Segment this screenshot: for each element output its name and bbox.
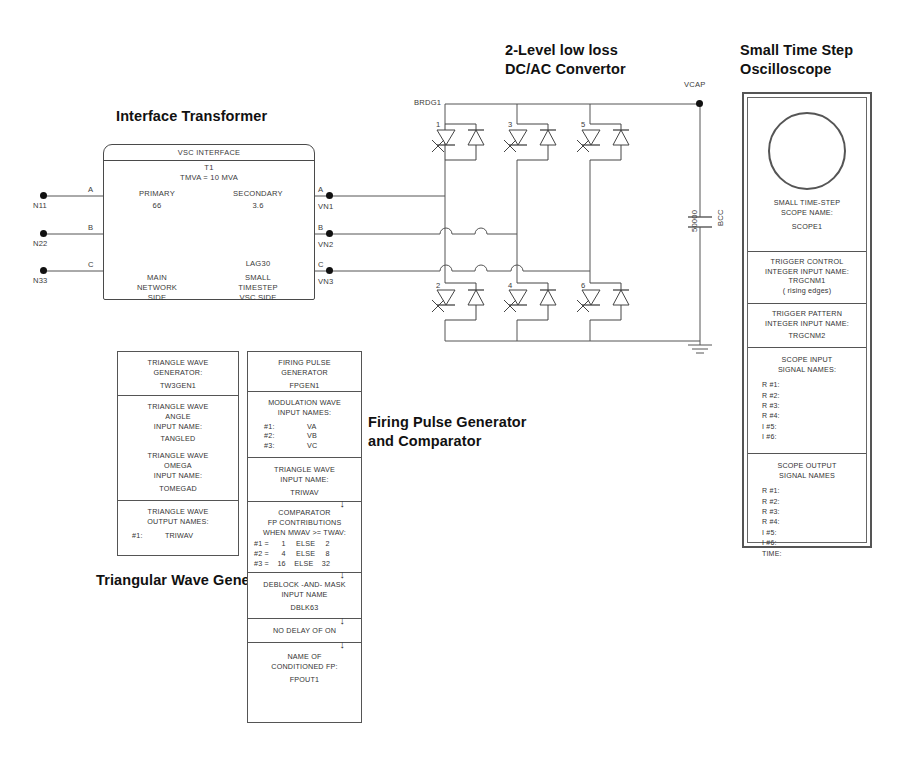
scope-input-signal: R #3:: [762, 401, 866, 411]
transformer-rating: TMVA = 10 MVA: [104, 173, 314, 182]
twgen-title-line1: TRIANGLE WAVE: [118, 358, 238, 368]
fpgen-mod-value: VC: [307, 441, 317, 450]
twgen-omega-line2: OMEGA: [118, 461, 238, 471]
transformer-title: VSC INTERFACE: [104, 145, 314, 161]
scope-output-signal: TIME:: [762, 549, 866, 559]
scope-input-line2: SIGNAL NAMES:: [748, 365, 866, 375]
fpgen-comp-off: 8: [326, 549, 330, 558]
heading-converter-line2: DC/AC Convertor: [505, 60, 626, 79]
trigger-pattern-line1: TRIGGER PATTERN: [748, 309, 866, 319]
fpgen-mod-row: #1: VA: [248, 422, 361, 432]
fpgen-cond-value: FPOUT1: [248, 675, 361, 685]
node-label-n22: N22: [33, 239, 48, 248]
scope-name-line2: SCOPE NAME:: [748, 208, 866, 218]
twgen-angle-value: TANGLED: [118, 434, 238, 444]
fpgen-title-section: FIRING PULSE GENERATOR FPGEN1: [248, 352, 361, 392]
scope-name-value: SCOPE1: [748, 222, 866, 232]
fpgen-modulation-section: MODULATION WAVE INPUT NAMES: #1: VA #2: …: [248, 392, 361, 458]
scope-input-signal: R #1:: [762, 380, 866, 390]
trigger-control-line1: TRIGGER CONTROL: [748, 257, 866, 267]
fpgen-comp-else: ELSE: [294, 559, 313, 568]
twgen-angle-line2: ANGLE: [118, 412, 238, 422]
trigger-control-value: TRGCNM1: [748, 276, 866, 286]
scope-input-line1: SCOPE INPUT: [748, 355, 866, 365]
fpgen-comp-line2: FP CONTRIBUTIONS: [248, 518, 361, 528]
twgen-omega-line1: TRIANGLE WAVE: [118, 451, 238, 461]
fpgen-comp-index: #3 =: [254, 559, 269, 568]
fpgen-title-line2: GENERATOR: [248, 368, 361, 378]
valve-label-1: 1: [436, 120, 440, 129]
oscilloscope-block[interactable]: SMALL TIME-STEP SCOPE NAME: SCOPE1 TRIGG…: [742, 92, 872, 548]
twgen-omega-value: TOMEGAD: [118, 484, 238, 494]
scope-output-signal: R #1:: [762, 486, 866, 496]
valve-label-6: 6: [581, 281, 585, 290]
fpgen-mod-line1: MODULATION WAVE: [248, 398, 361, 408]
valve-label-4: 4: [508, 281, 512, 290]
interface-transformer-block[interactable]: VSC INTERFACE T1 TMVA = 10 MVA PRIMARY 6…: [103, 144, 315, 300]
valve-label-3: 3: [508, 120, 512, 129]
transformer-primary-side-line3: SIDE: [112, 293, 202, 302]
twgen-angle-line3: INPUT NAME:: [118, 422, 238, 432]
fpgen-mod-row: #3: VC: [248, 441, 361, 451]
fpgen-comp-line3: WHEN MWAV >= TWAV:: [248, 528, 361, 538]
capacitor-value: 50000: [690, 210, 699, 232]
node-label-n11: N11: [33, 201, 47, 210]
fpgen-comp-row: #1 = 1 ELSE 2: [248, 539, 361, 549]
node-dot-vn2: [326, 230, 333, 237]
fpgen-tri-line1: TRIANGLE WAVE: [248, 465, 361, 475]
node-label-vcap: VCAP: [684, 80, 705, 89]
twgen-inputs-section: TRIANGLE WAVE ANGLE INPUT NAME: TANGLED …: [118, 396, 238, 501]
phase-label-secondary-a: A: [318, 185, 323, 194]
node-label-vn3: VN3: [318, 277, 333, 286]
phase-label-secondary-b: B: [318, 223, 323, 232]
fpgen-cond-line2: CONDITIONED FP:: [248, 662, 361, 672]
triangle-wave-generator-block[interactable]: TRIANGLE WAVE GENERATOR: TW3GEN1 TRIANGL…: [117, 351, 239, 556]
trigger-pattern-value: TRGCNM2: [748, 331, 866, 341]
fpgen-delay-section: NO DELAY OF ON ↓: [248, 619, 361, 643]
fpgen-deblock-line2: INPUT NAME: [248, 590, 361, 600]
bridge-label: BRDG1: [414, 98, 441, 107]
transformer-primary-kv: 66: [112, 201, 202, 210]
scope-name-section: SMALL TIME-STEP SCOPE NAME: SCOPE1: [748, 112, 866, 252]
capacitor-name: BCC: [716, 209, 725, 226]
fpgen-title-line1: FIRING PULSE: [248, 358, 361, 368]
twgen-outputs-section: TRIANGLE WAVE OUTPUT NAMES: #1: TRIWAV: [118, 501, 238, 557]
node-dot-n22: [40, 230, 47, 237]
fpgen-mod-index: #1:: [264, 422, 275, 431]
twgen-title-value: TW3GEN1: [118, 381, 238, 391]
scope-input-section: SCOPE INPUT SIGNAL NAMES: R #1: R #2: R …: [748, 348, 866, 454]
fpgen-deblock-line1: DEBLOCK -AND- MASK: [248, 580, 361, 590]
fpgen-comp-off: 32: [322, 559, 330, 568]
fpgen-mod-line2: INPUT NAMES:: [248, 408, 361, 418]
fpgen-comp-on: 4: [281, 549, 285, 558]
trigger-pattern-section: TRIGGER PATTERN INTEGER INPUT NAME: TRGC…: [748, 304, 866, 348]
phase-label-primary-c: C: [88, 260, 94, 269]
fpgen-comp-else: ELSE: [296, 539, 315, 548]
scope-output-section: SCOPE OUTPUT SIGNAL NAMES R #1: R #2: R …: [748, 454, 866, 554]
transformer-secondary-side-line1: SMALL: [208, 273, 308, 282]
fpgen-delay-text: NO DELAY OF ON: [248, 626, 361, 636]
transformer-secondary-label: SECONDARY: [208, 189, 308, 198]
twgen-omega-line3: INPUT NAME:: [118, 471, 238, 481]
transformer-primary-label: PRIMARY: [112, 189, 202, 198]
fpgen-comp-row: #2 = 4 ELSE 8: [248, 549, 361, 559]
twgen-out-line2: OUTPUT NAMES:: [118, 517, 238, 527]
fpgen-tri-value: TRIWAV: [248, 488, 361, 498]
fpgen-comp-index: #2 =: [254, 549, 269, 558]
fpgen-comp-index: #1 =: [254, 539, 269, 548]
trigger-pattern-line2: INTEGER INPUT NAME:: [748, 319, 866, 329]
fpgen-mod-index: #3:: [264, 441, 275, 450]
transformer-secondary-side-line3: VSC SIDE: [208, 293, 308, 302]
trigger-control-section: TRIGGER CONTROL INTEGER INPUT NAME: TRGC…: [748, 252, 866, 304]
node-label-vn1: VN1: [318, 202, 333, 211]
node-label-n33: N33: [33, 276, 48, 285]
fpgen-triangle-section: TRIANGLE WAVE INPUT NAME: TRIWAV ↓: [248, 458, 361, 502]
fpgen-comp-on: 1: [281, 539, 285, 548]
firing-pulse-generator-block[interactable]: FIRING PULSE GENERATOR FPGEN1 MODULATION…: [247, 351, 362, 723]
heading-interface-transformer: Interface Transformer: [116, 107, 267, 126]
scope-output-signal: I #5:: [762, 528, 866, 538]
phase-label-secondary-c: C: [318, 260, 324, 269]
scope-input-signal: I #5:: [762, 422, 866, 432]
oscilloscope-inner-frame: SMALL TIME-STEP SCOPE NAME: SCOPE1 TRIGG…: [747, 97, 867, 543]
scope-output-signal: R #2:: [762, 497, 866, 507]
